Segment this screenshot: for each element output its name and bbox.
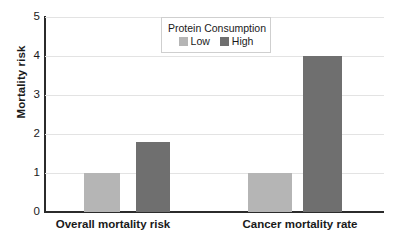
- legend-label-high: High: [232, 36, 254, 47]
- legend-swatch-low-icon: [179, 37, 188, 46]
- bar-overall-high[interactable]: [136, 142, 170, 212]
- y-tick-0: 0: [24, 206, 40, 218]
- y-axis-tick-labels: 5 4 3 2 1 0: [20, 0, 40, 239]
- x-category-label-cancer: Cancer mortality rate: [230, 218, 370, 230]
- legend-entries: Low High: [168, 36, 264, 47]
- bar-cancer-high[interactable]: [303, 56, 342, 212]
- bar-cancer-low[interactable]: [248, 173, 292, 212]
- y-tick-2: 2: [24, 128, 40, 140]
- legend-title: Protein Consumption: [168, 22, 264, 34]
- legend-entry-low[interactable]: Low: [179, 36, 210, 47]
- x-category-label-overall: Overall mortality risk: [45, 218, 181, 230]
- y-tick-4: 4: [24, 50, 40, 62]
- y-tick-3: 3: [24, 89, 40, 101]
- legend-entry-high[interactable]: High: [220, 36, 254, 47]
- bar-chart: Mortality risk 5 4 3 2 1 0 Overall morta…: [0, 0, 394, 239]
- legend-label-low: Low: [191, 36, 210, 47]
- legend: Protein Consumption Low High: [161, 17, 271, 53]
- bar-overall-low[interactable]: [84, 173, 120, 212]
- legend-swatch-high-icon: [220, 37, 229, 46]
- y-tick-5: 5: [24, 11, 40, 23]
- y-tick-1: 1: [24, 167, 40, 179]
